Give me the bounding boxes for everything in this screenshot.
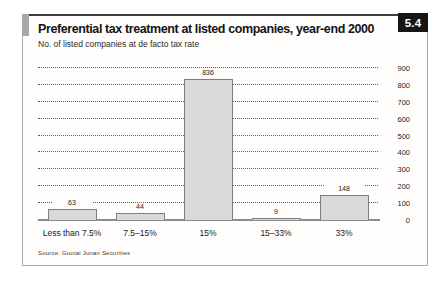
bar — [320, 195, 369, 220]
source-note: Source: Guotai Junan Securities — [38, 250, 130, 256]
x-tick-label: Less than 7.5% — [38, 228, 106, 238]
y-tick-label: 100 — [384, 199, 410, 208]
bar — [48, 209, 97, 220]
y-tick-label: 600 — [384, 114, 410, 123]
x-tick-label: 33% — [310, 228, 378, 238]
y-tick-label: 400 — [384, 148, 410, 157]
plot-area: 63448369148 — [38, 68, 378, 220]
bar — [184, 79, 233, 220]
y-tick-label: 200 — [384, 182, 410, 191]
bar — [252, 218, 301, 220]
y-tick-label: 700 — [384, 97, 410, 106]
accent-square — [22, 14, 29, 36]
x-tick-label: 15% — [174, 228, 242, 238]
y-tick-label: 0 — [384, 216, 410, 225]
chart-header: Preferential tax treatment at listed com… — [23, 16, 427, 49]
chart-subtitle: No. of listed companies at de facto tax … — [38, 39, 391, 49]
y-tick-label: 900 — [384, 64, 410, 73]
figure-number-badge: 5.4 — [398, 13, 428, 32]
bar-value-label: 9 — [256, 208, 296, 216]
figure-number: 5.4 — [405, 17, 422, 29]
bar-value-label: 836 — [188, 69, 228, 77]
y-tick-label: 800 — [384, 80, 410, 89]
y-axis-labels: 0100200300400500600700800900 — [384, 68, 410, 220]
bar-value-label: 63 — [52, 199, 92, 207]
bar-value-label: 44 — [120, 203, 160, 211]
x-tick-label: 7.5–15% — [106, 228, 174, 238]
y-tick-label: 300 — [384, 165, 410, 174]
chart-title: Preferential tax treatment at listed com… — [38, 22, 391, 36]
x-tick-label: 15–33% — [242, 228, 310, 238]
page: { "figure": { "number": "5.4", "title": … — [0, 0, 445, 283]
y-tick-label: 500 — [384, 131, 410, 140]
x-axis-labels: Less than 7.5%7.5–15%15%15–33%33% — [38, 228, 378, 240]
figure-card: 5.4 Preferential tax treatment at listed… — [22, 14, 428, 266]
bar — [116, 213, 165, 220]
bar-value-label: 148 — [324, 185, 364, 193]
